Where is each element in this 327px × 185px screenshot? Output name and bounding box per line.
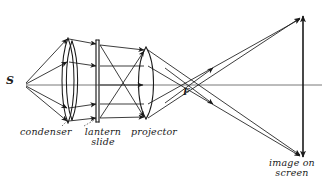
label-lantern-slide: lanternslide [77, 127, 129, 147]
label-focal-point: F [183, 88, 190, 97]
lantern-slide [96, 40, 99, 122]
label-image-on-screen: image onscreen [259, 158, 325, 178]
optical-diagram-figure: S F condenser lanternslide projector ima… [0, 0, 327, 185]
rays-source-to-condenser [26, 39, 67, 121]
rays-slide-to-projector [100, 45, 144, 118]
label-lantern-slide-line2: slide [91, 136, 115, 147]
label-image-line2: screen [275, 167, 308, 178]
label-projector: projector [131, 127, 177, 137]
label-condenser: condenser [20, 127, 72, 137]
condenser-lens [62, 38, 78, 123]
projector-lens [139, 47, 154, 119]
rays-condenser-to-slide [69, 39, 96, 121]
label-source: S [6, 75, 14, 87]
